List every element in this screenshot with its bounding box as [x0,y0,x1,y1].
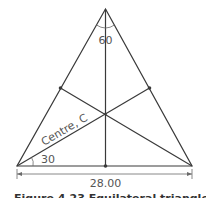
apex-angle-label: 60 [99,34,113,47]
centre-label: Centre, C [39,111,90,148]
diagram-canvas: 60 30 Centre, C 28.00 Figure 4.23 Equila… [0,0,206,198]
centroid-dot [104,113,107,116]
median-left [17,88,150,166]
dimension-arrow-left [17,172,22,176]
left-midpoint-dot [59,86,63,90]
base-midpoint-dot [104,164,108,168]
base-angle-label: 30 [41,153,55,166]
figure-caption: Figure 4.23 Equilateral triangle [14,192,206,198]
base-dimension-label: 28.00 [90,177,122,190]
dimension-arrow-right [187,172,192,176]
base-angle-arc [32,158,34,167]
right-midpoint-dot [148,86,152,90]
